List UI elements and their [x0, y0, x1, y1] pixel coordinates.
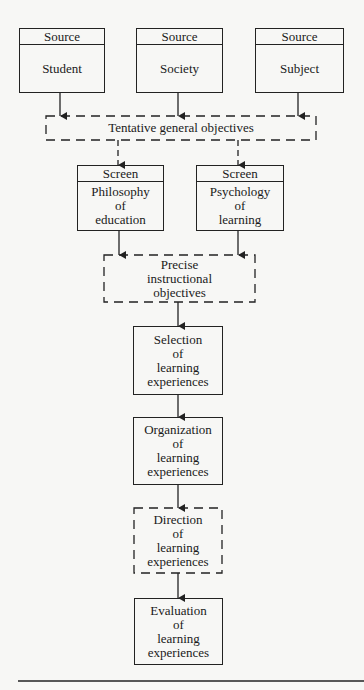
- step-box-evaluation: Evaluation of learning experiences: [134, 598, 223, 665]
- step-box-direction: Direction of learning experiences: [134, 508, 222, 573]
- screen-header: Screen: [78, 166, 163, 182]
- screen-box-psychology: Screen Psychology of learning: [196, 165, 284, 231]
- screen-line: of: [115, 199, 126, 213]
- source-header: Source: [137, 29, 222, 45]
- screen-line: Philosophy: [91, 185, 150, 199]
- source-box-society: Source Society: [136, 28, 223, 93]
- step-line: experiences: [147, 465, 208, 479]
- step-line: Selection: [154, 333, 202, 347]
- step-line: Evaluation: [150, 604, 206, 618]
- source-label: Society: [160, 62, 199, 76]
- source-box-subject: Source Subject: [255, 28, 344, 93]
- screen-header: Screen: [197, 166, 283, 182]
- step-line: of: [173, 527, 184, 541]
- step-line: learning: [157, 361, 200, 375]
- screen-line: learning: [219, 213, 262, 227]
- step-line: Direction: [153, 513, 202, 527]
- tentative-objectives-box: Tentative general objectives: [46, 116, 316, 140]
- source-header: Source: [20, 29, 104, 45]
- screen-line: of: [235, 199, 246, 213]
- step-box-selection: Selection of learning experiences: [133, 326, 223, 395]
- tentative-label: Tentative general objectives: [108, 121, 254, 135]
- step-line: learning: [157, 541, 200, 555]
- precise-line: instructional: [147, 272, 212, 286]
- step-line: Organization: [144, 423, 212, 437]
- screen-line: education: [95, 213, 146, 227]
- step-line: experiences: [148, 646, 209, 660]
- source-label: Student: [42, 62, 82, 76]
- precise-line: Precise: [161, 258, 199, 272]
- step-line: learning: [157, 451, 200, 465]
- precise-line: objectives: [153, 286, 206, 300]
- screen-line: Psychology: [210, 185, 271, 199]
- source-label: Subject: [280, 62, 319, 76]
- step-line: of: [173, 347, 184, 361]
- step-line: experiences: [147, 555, 208, 569]
- step-line: learning: [157, 632, 200, 646]
- step-line: of: [173, 437, 184, 451]
- screen-box-philosophy: Screen Philosophy of education: [77, 165, 164, 231]
- source-box-student: Source Student: [19, 28, 105, 93]
- step-box-organization: Organization of learning experiences: [133, 417, 223, 485]
- step-line: experiences: [147, 375, 208, 389]
- source-header: Source: [256, 29, 343, 45]
- precise-objectives-box: Precise instructional objectives: [104, 255, 255, 302]
- step-line: of: [173, 618, 184, 632]
